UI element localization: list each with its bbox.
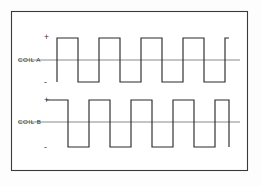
- coil-b-plus-marker: +: [44, 95, 49, 105]
- coil-a-plus-marker: +: [44, 32, 49, 42]
- coil-b-minus-marker: -: [44, 142, 47, 152]
- waveform-figure: COIL A + - COIL B + -: [0, 0, 261, 186]
- coil-a-minus-marker: -: [44, 77, 47, 87]
- coil-b-label: COIL B: [18, 118, 41, 125]
- waveform-diagram: COIL A + - COIL B + -: [0, 0, 261, 186]
- coil-a-label: COIL A: [18, 56, 41, 63]
